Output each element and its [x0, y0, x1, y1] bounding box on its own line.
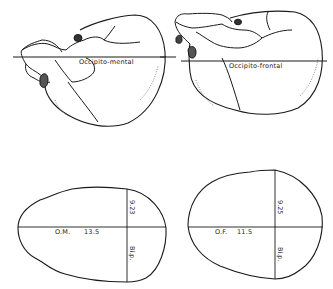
om-value: 13.5: [84, 228, 99, 236]
occipito-frontal-label: Occipito-frontal: [229, 62, 282, 70]
occipito-mental-label: Occipito-mental: [79, 58, 134, 66]
bip-label-right: Bi.p.: [276, 247, 284, 262]
om-abbrev-label: O.M.: [55, 228, 70, 236]
skull-occipito-mental: [21, 15, 165, 126]
diagram-canvas: [0, 0, 333, 289]
of-value: 11.5: [237, 228, 252, 236]
bip-value-left: 9.23: [128, 200, 136, 214]
bip-label-left: Bi.p.: [128, 246, 136, 261]
bip-value-right: 9.25: [276, 200, 284, 214]
outline-occipito-frontal: [188, 170, 322, 279]
of-abbrev-label: O.F.: [215, 228, 227, 236]
